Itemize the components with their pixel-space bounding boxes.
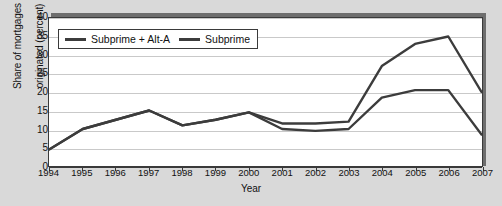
legend-item-subprime-alt-a: Subprime + Alt-A: [65, 33, 170, 45]
y-tick-label: 30: [37, 50, 48, 60]
x-tick-label: 1995: [71, 168, 92, 178]
x-tick-label: 2001: [272, 168, 293, 178]
chart-figure: Share of mortgages originated (percent) …: [0, 0, 502, 206]
x-axis-tick-labels: 1994199519961997199819992000200120022003…: [48, 168, 483, 182]
x-tick-label: 1999: [205, 168, 226, 178]
x-tick-label: 2005: [405, 168, 426, 178]
x-tick-label: 1994: [38, 168, 59, 178]
x-tick-label: 2007: [472, 168, 493, 178]
legend-swatch-subprime: [179, 38, 200, 41]
y-tick-label: 15: [37, 106, 48, 116]
x-tick-label: 1998: [171, 168, 192, 178]
y-tick-label: 40: [37, 12, 48, 22]
legend-swatch-subprime-alt-a: [65, 38, 86, 41]
y-axis-title-line-1: Share of mortgages: [12, 3, 23, 89]
x-tick-label: 1996: [105, 168, 126, 178]
x-tick-label: 2003: [338, 168, 359, 178]
y-tick-label: 35: [37, 31, 48, 41]
legend-label-subprime: Subprime: [205, 33, 250, 45]
x-tick-label: 2004: [372, 168, 393, 178]
x-tick-label: 1997: [138, 168, 159, 178]
y-tick-label: 10: [37, 125, 48, 135]
series-line-subprime: [49, 90, 481, 149]
legend-item-subprime: Subprime: [179, 33, 250, 45]
legend-label-subprime-alt-a: Subprime + Alt-A: [91, 33, 170, 45]
x-axis-title: Year: [0, 183, 502, 194]
x-tick-label: 2000: [238, 168, 259, 178]
y-tick-label: 20: [37, 87, 48, 97]
x-tick-label: 2006: [439, 168, 460, 178]
series-line-subprime-alt-a: [49, 37, 481, 150]
chart-legend: Subprime + Alt-A Subprime: [58, 29, 258, 49]
y-tick-label: 25: [37, 68, 48, 78]
x-tick-label: 2002: [305, 168, 326, 178]
y-axis-tick-labels: 0510152025303540: [26, 12, 48, 168]
